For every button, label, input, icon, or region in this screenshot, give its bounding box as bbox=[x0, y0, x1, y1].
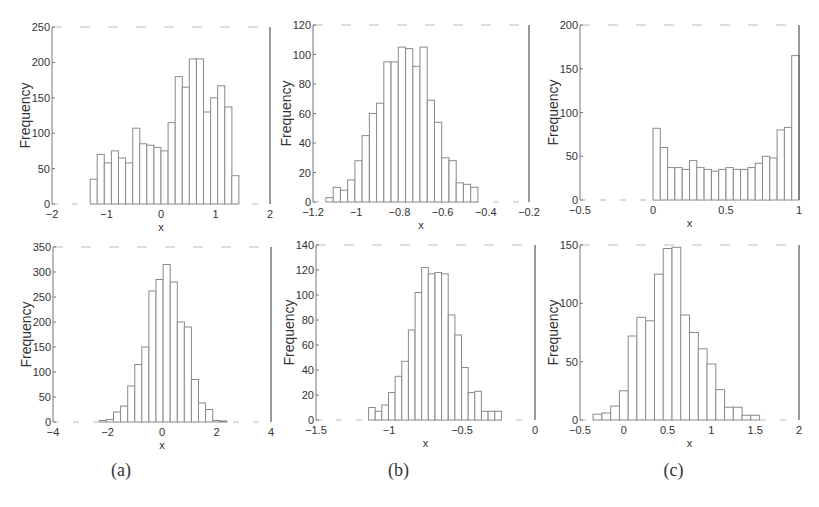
y-tick-label: 150 bbox=[560, 63, 578, 75]
y-tick-label: 40 bbox=[299, 137, 311, 149]
histogram-bar bbox=[206, 410, 213, 423]
histogram-bar bbox=[189, 59, 196, 204]
histogram-bar bbox=[140, 144, 147, 204]
histogram-bar bbox=[218, 86, 225, 204]
histogram-bar bbox=[104, 163, 111, 204]
histogram-bar bbox=[375, 411, 382, 420]
x-tick-label: −0.2 bbox=[518, 206, 540, 218]
x-tick-label: 0 bbox=[621, 424, 627, 436]
histogram-bar bbox=[220, 421, 227, 422]
histogram-bar bbox=[628, 336, 637, 420]
histogram-bar bbox=[111, 151, 118, 204]
histogram-bar bbox=[377, 103, 384, 202]
x-tick-label: 0.5 bbox=[660, 424, 675, 436]
chart-svg: 020406080100120140−1.5−1−0.50xFrequency bbox=[270, 230, 550, 460]
histogram-bar bbox=[168, 123, 175, 204]
x-tick-label: 2 bbox=[213, 426, 219, 438]
histogram-bar bbox=[668, 168, 675, 200]
y-tick-label: 300 bbox=[33, 266, 51, 278]
histogram-bar bbox=[748, 168, 755, 200]
histogram-bar bbox=[646, 321, 655, 420]
histogram-bar bbox=[142, 347, 149, 422]
histogram-bar bbox=[154, 147, 161, 204]
histogram-bar bbox=[682, 169, 689, 200]
y-tick-label: 100 bbox=[296, 289, 314, 301]
x-tick-label: −0.5 bbox=[569, 424, 591, 436]
y-tick-label: 250 bbox=[32, 21, 50, 33]
histogram-bar bbox=[422, 268, 429, 421]
histogram-bar bbox=[420, 47, 427, 202]
y-tick-label: 100 bbox=[560, 107, 578, 119]
histogram-bar bbox=[593, 414, 602, 420]
x-tick-label: 0.5 bbox=[718, 204, 733, 216]
histogram-bar bbox=[427, 100, 434, 202]
x-tick-label: −4 bbox=[47, 426, 60, 438]
x-tick-label: −0.5 bbox=[451, 424, 473, 436]
histogram-bar bbox=[369, 408, 376, 421]
y-tick-label: 150 bbox=[32, 92, 50, 104]
histogram-bar bbox=[611, 406, 620, 420]
histogram-bar bbox=[690, 161, 697, 200]
histogram-bar bbox=[655, 274, 664, 420]
x-tick-label: −2 bbox=[46, 208, 59, 220]
histogram-bar bbox=[482, 411, 489, 420]
histogram-bar bbox=[697, 168, 704, 200]
histogram-bar bbox=[398, 47, 405, 202]
histogram-bar bbox=[369, 114, 376, 203]
histogram-bar bbox=[681, 315, 690, 420]
histogram-bar bbox=[637, 317, 646, 420]
x-tick-label: 1 bbox=[796, 204, 802, 216]
histogram-bar bbox=[455, 335, 462, 420]
x-tick-label: −1.2 bbox=[302, 206, 324, 218]
histogram-bar bbox=[232, 176, 239, 204]
histogram-bar bbox=[726, 168, 733, 200]
histogram-a-top: 050100150200250−2−1012xFrequency bbox=[0, 0, 280, 230]
histogram-bar bbox=[355, 161, 362, 202]
x-axis-label: x bbox=[159, 439, 165, 451]
x-tick-label: −1 bbox=[350, 206, 363, 218]
y-tick-label: 20 bbox=[299, 167, 311, 179]
histogram-bar bbox=[362, 136, 369, 202]
x-tick-label: 0 bbox=[532, 424, 538, 436]
histogram-bar bbox=[119, 158, 126, 204]
y-tick-label: 50 bbox=[566, 356, 578, 368]
histogram-bar bbox=[196, 59, 203, 204]
histogram-bar bbox=[163, 265, 170, 423]
histogram-bar bbox=[468, 393, 475, 421]
histogram-bar bbox=[408, 330, 415, 420]
histogram-bar bbox=[770, 158, 777, 200]
histogram-bar bbox=[763, 156, 770, 200]
y-axis-label: Frequency bbox=[545, 79, 561, 145]
y-tick-label: 140 bbox=[296, 239, 314, 251]
chart-svg: 020406080100120−1.2−1−0.8−0.6−0.4−0.2xFr… bbox=[270, 0, 550, 230]
y-tick-label: 100 bbox=[32, 127, 50, 139]
histogram-bar bbox=[135, 365, 142, 423]
histogram-bar bbox=[704, 169, 711, 200]
histogram-b-bottom: 020406080100120140−1.5−1−0.50xFrequency bbox=[270, 230, 550, 460]
histogram-bar bbox=[114, 412, 121, 422]
histogram-bar bbox=[225, 107, 232, 204]
histogram-bar bbox=[495, 411, 502, 420]
histogram-bar bbox=[391, 62, 398, 202]
histogram-bar bbox=[471, 187, 478, 202]
histogram-bar bbox=[156, 280, 163, 423]
histogram-bar bbox=[456, 183, 463, 202]
y-axis-label: Frequency bbox=[545, 299, 561, 365]
chart-svg: 050100150200250−2−1012xFrequency bbox=[0, 0, 280, 230]
histogram-bar bbox=[619, 391, 628, 420]
histogram-bar bbox=[191, 380, 198, 423]
histogram-bar bbox=[211, 98, 218, 204]
histogram-bar bbox=[384, 62, 391, 202]
histogram-bar bbox=[719, 169, 726, 200]
y-tick-label: 100 bbox=[33, 366, 51, 378]
histogram-bar bbox=[435, 122, 442, 202]
histogram-bar bbox=[733, 169, 740, 200]
histogram-bar bbox=[177, 322, 184, 422]
histogram-bar bbox=[175, 77, 182, 204]
y-tick-label: 120 bbox=[296, 264, 314, 276]
y-tick-label: 80 bbox=[299, 78, 311, 90]
y-tick-label: 50 bbox=[38, 163, 50, 175]
bars bbox=[99, 265, 227, 423]
bars bbox=[369, 268, 502, 421]
histogram-bar bbox=[406, 49, 413, 202]
